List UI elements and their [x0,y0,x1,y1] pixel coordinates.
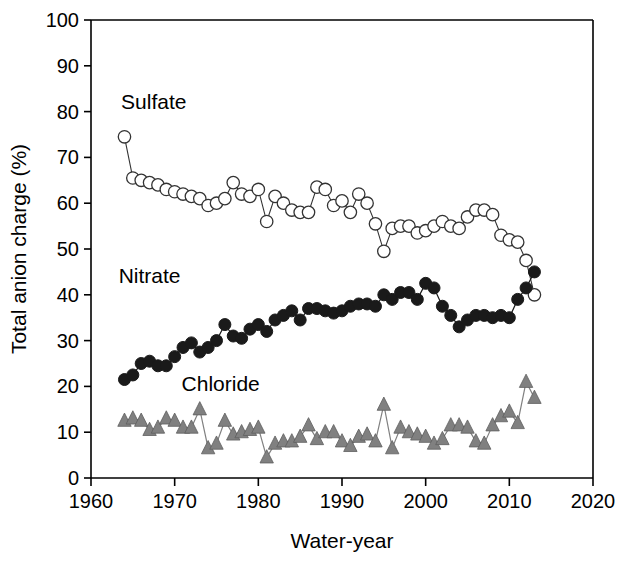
point-sulfate-1988 [319,183,331,195]
y-tick-label-60: 60 [57,192,79,214]
x-tick-label-1990: 1990 [320,490,365,512]
point-sulfate-1990 [336,195,348,207]
point-nitrate-1981 [261,325,273,337]
point-sulfate-1986 [302,206,314,218]
point-nitrate-2013 [528,266,540,278]
y-tick-label-70: 70 [57,146,79,168]
x-tick-label-1960: 1960 [69,490,114,512]
y-tick-label-50: 50 [57,238,79,260]
point-sulfate-1995 [378,245,390,257]
y-tick-label-20: 20 [57,375,79,397]
y-tick-label-30: 30 [57,330,79,352]
x-tick-label-1970: 1970 [152,490,197,512]
x-tick-label-1980: 1980 [236,490,281,512]
point-nitrate-1985 [294,314,306,326]
y-tick-label-80: 80 [57,101,79,123]
point-nitrate-1999 [411,293,423,305]
x-tick-label-2010: 2010 [487,490,532,512]
chart-figure: 0102030405060708090100 19601970198019902… [0,0,627,563]
point-sulfate-1977 [227,176,239,188]
point-sulfate-1993 [361,197,373,209]
point-nitrate-2010 [503,312,515,324]
x-axis-title: Water-year [290,529,393,552]
point-nitrate-1965 [127,369,139,381]
point-sulfate-1976 [219,192,231,204]
point-sulfate-2011 [512,236,524,248]
point-sulfate-1991 [344,206,356,218]
x-tick-label-2000: 2000 [403,490,448,512]
y-tick-label-0: 0 [68,467,79,489]
point-nitrate-2012 [520,282,532,294]
point-sulfate-2004 [453,222,465,234]
annotation-nitrate: Nitrate [119,264,181,287]
point-sulfate-2012 [520,254,532,266]
y-axis-title: Total anion charge (%) [7,144,30,354]
point-nitrate-1994 [369,300,381,312]
point-nitrate-1976 [219,319,231,331]
point-sulfate-1980 [252,183,264,195]
point-nitrate-1975 [211,335,223,347]
point-nitrate-2003 [445,309,457,321]
y-tick-label-100: 100 [46,9,79,31]
y-tick-label-40: 40 [57,284,79,306]
anion-charge-line-chart: 0102030405060708090100 19601970198019902… [0,0,627,563]
point-sulfate-1981 [261,215,273,227]
annotation-sulfate: Sulfate [121,90,186,113]
point-nitrate-2001 [428,282,440,294]
y-tick-label-10: 10 [57,421,79,443]
point-sulfate-1964 [118,131,130,143]
annotation-chloride: Chloride [182,372,260,395]
x-tick-label-2020: 2020 [571,490,616,512]
y-tick-label-90: 90 [57,55,79,77]
point-sulfate-2008 [486,208,498,220]
point-nitrate-2011 [512,293,524,305]
point-sulfate-1994 [369,218,381,230]
